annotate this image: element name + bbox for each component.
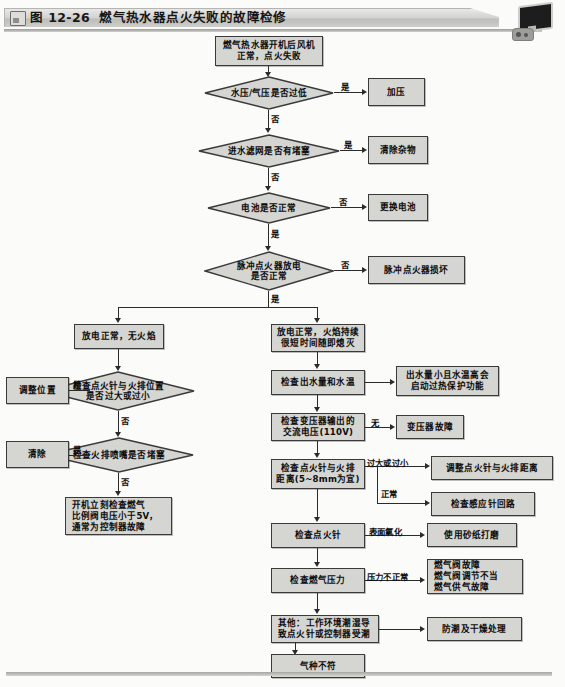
node-action-pressurize: 加压	[368, 78, 425, 106]
arrowhead-right	[362, 204, 367, 210]
figure-header: 图 12-26燃气热水器点火失败的故障检修	[0, 4, 565, 30]
node-action-replace-battery: 更换电池	[368, 194, 428, 221]
edge-label-none: 无	[371, 416, 379, 428]
edge-label-too-large-small: 过大或过小	[367, 456, 408, 468]
arrowhead-down	[265, 128, 271, 133]
edge-d2-a2	[340, 150, 364, 151]
node-action-adjust-position: 调整位置	[6, 377, 69, 404]
node-overheat-protection: 出水量小且水温高会 启动过热保护功能	[396, 366, 499, 396]
edge-label-no: 否	[271, 170, 279, 182]
edge-label-no: 否	[341, 258, 349, 270]
figure-page: 图 12-26燃气热水器点火失败的故障检修 燃气热水器开机后风机 正常，点火失败…	[0, 0, 565, 687]
edge-ld2-lb2	[118, 473, 119, 493]
edge-d3-a3	[331, 207, 364, 208]
node-label: 脉冲点火器放电 是否正常	[204, 251, 334, 291]
node-start: 燃气热水器开机后风机 正常，点火失败	[215, 36, 323, 66]
figure-number: 图 12-26	[30, 10, 90, 25]
arrowhead-down	[314, 318, 320, 323]
document-icon	[10, 11, 26, 26]
monitor-base	[512, 28, 534, 41]
footer-divider	[6, 672, 552, 676]
edge-d4-split	[268, 291, 269, 308]
computer-monitor-icon	[508, 2, 553, 44]
edge-rb2-ra2	[365, 382, 392, 383]
node-sandpaper-polish: 使用砂纸打磨	[427, 523, 517, 547]
node-check-water-flow: 检查出水量和水温	[271, 370, 365, 395]
edge-label-no: 否	[121, 475, 129, 487]
arrowhead-right	[362, 267, 367, 273]
node-controller-fault: 开机立刻检查燃气 比例阀电压小于5V， 通常为控制器故障	[65, 497, 172, 535]
edge-rb4-ra4b-h	[377, 503, 427, 504]
arrowhead-down	[314, 453, 320, 458]
edge-label-no: 否	[121, 414, 129, 426]
node-other-damp-environment: 其他：工作环境潮湿导 致点火针或控制器受潮	[271, 615, 379, 643]
edge-rb4-ra4b-v	[377, 466, 378, 504]
node-check-ignition-needle: 检查点火针	[271, 523, 365, 548]
edge-rb4-rb5	[317, 489, 318, 519]
node-check-gas-pressure: 检查燃气压力	[271, 568, 365, 593]
arrowhead-right	[362, 89, 367, 95]
arrowhead-right	[390, 424, 395, 430]
arrowhead-right	[362, 147, 367, 153]
node-gas-valve-faults: 燃气阀故障 燃气阀调节不当 燃气供气故障	[427, 559, 523, 594]
node-transformer-fault: 变压器故障	[396, 415, 464, 439]
arrowhead-down	[314, 562, 320, 567]
node-action-igniter-damaged: 脉冲点火器损坏	[368, 256, 465, 284]
arrowhead-down	[115, 491, 121, 496]
edge-d1-a1	[334, 92, 364, 93]
node-adjust-needle-distance: 调整点火针与火排距离	[431, 456, 553, 480]
edge-label-yes: 是	[73, 378, 81, 390]
node-decision-filter: 进水滤网是否有堵塞	[198, 134, 340, 168]
arrowhead-right	[425, 463, 430, 469]
edge-label-oxidized: 表面氧化	[369, 525, 402, 537]
arrowhead-right	[420, 532, 425, 538]
node-action-clear: 清除	[6, 441, 69, 468]
figure-title: 燃气热水器点火失败的故障检修	[99, 10, 287, 25]
edge-label-yes: 是	[73, 443, 81, 455]
node-check-needle-distance: 检查点火针与火排 距离(5~8mm为宜)	[271, 459, 365, 489]
node-flame-extinguishes: 放电正常，火焰持续 很短时间随即熄灭	[271, 324, 365, 352]
edge-d1-d2	[268, 110, 269, 130]
edge-label-abnormal-pressure: 压力不正常	[367, 570, 408, 582]
node-discharge-no-flame: 放电正常，无火焰	[74, 324, 164, 349]
header-divider	[4, 29, 542, 32]
node-decision-pressure: 水压/气压是否过低	[204, 76, 334, 110]
arrowhead-right	[425, 500, 430, 506]
arrowhead-right	[390, 379, 395, 385]
arrowhead-down	[115, 318, 121, 323]
edge-split-bus	[118, 307, 318, 308]
node-check-sensor-circuit: 检查感应针回路	[431, 492, 535, 516]
page-title: 图 12-26燃气热水器点火失败的故障检修	[30, 9, 287, 27]
node-decision-battery: 电池是否正常	[207, 192, 331, 224]
node-check-transformer: 检查变压器输出的 交流电压(110V)	[271, 413, 365, 441]
node-action-clear-debris: 清除杂物	[368, 136, 428, 164]
edge-label-yes: 是	[344, 138, 352, 150]
node-decision-igniter: 脉冲点火器放电 是否正常	[204, 251, 334, 291]
edge-label-yes: 是	[341, 80, 349, 92]
arrowhead-down	[314, 407, 320, 412]
edge-label-yes: 是	[271, 227, 279, 239]
node-moisture-drying: 防潮及干燥处理	[427, 617, 522, 641]
arrowhead-right	[420, 577, 425, 583]
edge-label-yes: 是	[271, 292, 279, 304]
edge-label-no: 否	[271, 112, 279, 124]
edge-label-no: 否	[339, 195, 347, 207]
edge-label-normal: 正常	[381, 487, 397, 499]
node-label: 电池是否正常	[207, 192, 331, 224]
edge-rb7-ra7	[379, 629, 422, 630]
edge-ld1-ld2	[118, 411, 119, 434]
arrowhead-down	[314, 517, 320, 522]
edge-d4-a4	[334, 270, 364, 271]
arrowhead-down	[314, 364, 320, 369]
edge-d2-d3	[268, 168, 269, 188]
edge-d3-d4	[268, 224, 269, 248]
node-label: 进水滤网是否有堵塞	[198, 134, 340, 168]
arrowhead-down	[314, 609, 320, 614]
arrowhead-down	[265, 186, 271, 191]
node-label: 水压/气压是否过低	[204, 76, 334, 110]
arrowhead-right	[420, 626, 425, 632]
